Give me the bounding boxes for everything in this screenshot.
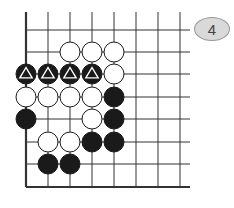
black-stone bbox=[38, 154, 58, 174]
black-stone bbox=[104, 109, 124, 129]
white-stone bbox=[82, 109, 102, 129]
white-stone bbox=[38, 132, 58, 152]
black-stone bbox=[82, 132, 102, 152]
white-stone bbox=[16, 87, 36, 107]
white-stone bbox=[60, 87, 80, 107]
white-stone bbox=[38, 87, 58, 107]
white-stone bbox=[60, 132, 80, 152]
white-stone bbox=[82, 42, 102, 62]
problem-number-badge: 4 bbox=[194, 17, 230, 41]
black-stone bbox=[104, 87, 124, 107]
black-stone bbox=[60, 154, 80, 174]
white-stone bbox=[104, 64, 124, 84]
white-stone bbox=[82, 87, 102, 107]
white-stone bbox=[104, 42, 124, 62]
black-stone bbox=[104, 132, 124, 152]
black-stone bbox=[16, 109, 36, 129]
white-stone bbox=[60, 42, 80, 62]
